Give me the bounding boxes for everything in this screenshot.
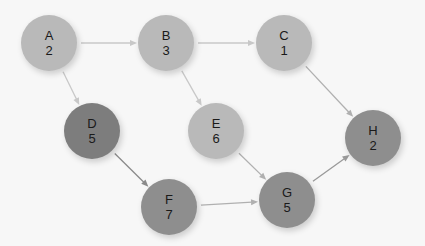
edge-d-f — [115, 153, 149, 186]
arrowhead-icon — [248, 40, 255, 46]
edge-b-e — [182, 71, 202, 106]
node-label: D — [87, 116, 96, 131]
edge-g-h — [313, 155, 350, 181]
node-value: 5 — [88, 131, 95, 146]
node-label: C — [279, 28, 288, 43]
node-value: 2 — [45, 43, 52, 58]
node-label: H — [368, 123, 377, 138]
node-value: 3 — [162, 43, 169, 58]
node-value: 6 — [212, 131, 219, 146]
node-c: C1 — [256, 15, 312, 71]
node-label: E — [212, 116, 221, 131]
node-f: F7 — [141, 179, 197, 235]
edge-c-h — [306, 66, 353, 116]
node-label: B — [162, 28, 171, 43]
edge-a-d — [63, 72, 79, 105]
node-b: B3 — [138, 15, 194, 71]
node-d: D5 — [64, 103, 120, 159]
node-g: G5 — [259, 172, 315, 228]
node-label: G — [282, 185, 292, 200]
node-value: 7 — [165, 207, 172, 222]
node-h: H2 — [345, 110, 401, 166]
node-label: A — [45, 28, 54, 43]
network-diagram: A2B3C1D5E6F7G5H2 — [0, 0, 425, 246]
edge-b-c — [198, 40, 255, 46]
node-value: 5 — [283, 200, 290, 215]
arrowhead-icon — [342, 155, 349, 162]
node-a: A2 — [21, 15, 77, 71]
node-value: 2 — [369, 138, 376, 153]
edge-e-g — [239, 153, 266, 179]
arrowhead-icon — [251, 199, 258, 205]
node-label: F — [165, 192, 173, 207]
edge-a-b — [81, 40, 137, 46]
arrowhead-icon — [130, 40, 137, 46]
node-value: 1 — [280, 43, 287, 58]
node-e: E6 — [188, 103, 244, 159]
edge-f-g — [201, 199, 258, 205]
